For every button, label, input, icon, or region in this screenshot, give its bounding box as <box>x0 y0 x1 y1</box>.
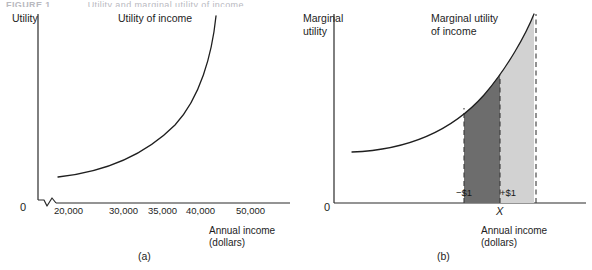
panel-a-xtick-30000: 30,000 <box>109 205 138 216</box>
x-reference-point-label: X <box>496 205 503 217</box>
panel-b: Marginal utility Marginal utility of inc… <box>296 0 592 270</box>
panel-b-curve-label: Marginal utility of income <box>431 12 498 37</box>
panel-b-plot <box>296 0 592 270</box>
panel-b-origin-label: 0 <box>324 201 330 213</box>
band-dollar-lost <box>464 10 500 203</box>
panel-a-origin-label: 0 <box>20 201 26 213</box>
panel-a-y-axis-label: Utility <box>12 12 38 25</box>
band-dollar-gained <box>500 10 536 203</box>
panel-a-xtick-35000: 35,000 <box>148 205 177 216</box>
panel-a-caption: (a) <box>138 250 151 262</box>
panel-a: Utility Utility of income 0 20,000 30,00… <box>0 0 296 270</box>
band-label-dollar-lost: −$1 <box>456 187 472 198</box>
panel-a-x-axis-label: Annual income (dollars) <box>209 225 275 248</box>
panel-b-caption: (b) <box>437 250 450 262</box>
panel-a-xtick-50000: 50,000 <box>236 205 265 216</box>
panel-b-y-axis-label: Marginal utility <box>303 12 343 37</box>
panel-a-xtick-20000: 20,000 <box>54 205 83 216</box>
band-label-dollar-gained: +$1 <box>500 187 516 198</box>
panel-a-curve-label: Utility of income <box>118 12 192 25</box>
panel-a-xtick-40000: 40,000 <box>186 205 215 216</box>
utility-of-income-curve <box>58 16 216 177</box>
figure-root: FIGURE 1 Utility and marginal utility of… <box>0 0 592 270</box>
panel-b-x-axis-label: Annual income (dollars) <box>481 225 547 248</box>
